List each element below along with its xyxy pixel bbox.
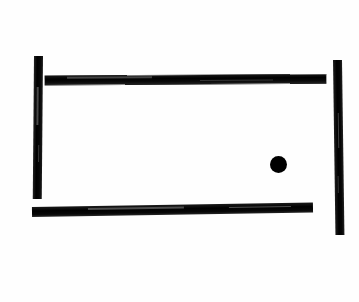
scene-title: Pong bbox=[0, 0, 1, 1]
right-paddle[interactable] bbox=[333, 60, 344, 235]
ball bbox=[270, 156, 287, 173]
top-wall bbox=[45, 74, 326, 85]
game-canvas: Pong bbox=[0, 0, 359, 302]
left-paddle[interactable] bbox=[33, 56, 43, 199]
bottom-wall bbox=[32, 203, 313, 217]
